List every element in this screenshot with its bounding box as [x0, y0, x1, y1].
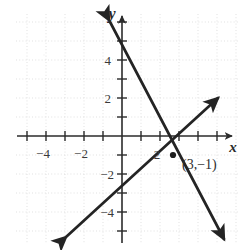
y-tick-label-2: 2: [105, 91, 112, 106]
intersection-point: [170, 152, 176, 158]
x-axis-label: x: [228, 139, 237, 155]
x-tick-label-neg4: −4: [36, 146, 50, 161]
y-tick-label-neg2: −2: [100, 167, 114, 182]
x-tick-label-neg2: −2: [74, 146, 88, 161]
x-tick-label-2: 2: [154, 147, 161, 162]
y-axis-label: y: [106, 5, 116, 23]
intersection-point-label: (3,−1): [182, 157, 217, 173]
y-tick-label-neg4: −4: [100, 205, 114, 220]
graph-figure: −4 −2 2 4 2 −2 −4 y x (3,−1): [0, 0, 246, 250]
y-tick-label-4: 4: [105, 53, 112, 68]
coordinate-plane-svg: −4 −2 2 4 2 −2 −4 y x (3,−1): [0, 0, 246, 250]
